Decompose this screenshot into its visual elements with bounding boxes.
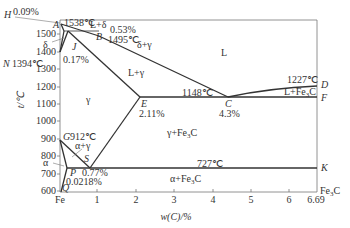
j-pct-label: 0.17% [63,54,89,65]
x-tick-fe: Fe [55,194,66,205]
x-tick-2: 2 [134,194,139,205]
h-pct-label: 0.09% [13,6,39,17]
point-d-label: D [320,79,329,90]
d-temp-label: 1227℃ [287,74,318,85]
alpha-fe3c-region-label: α+Fe3C [170,173,201,186]
x-tick-5: 5 [249,194,254,205]
y-tick-1100: 1100 [36,98,56,109]
alpha-gamma-region-label: α+γ [75,140,91,151]
b-temp-label: 1495℃ [108,34,139,45]
l-delta-label: L+δ [90,19,107,30]
x-tick-3: 3 [172,194,177,205]
y-tick-900: 900 [41,133,56,144]
point-a-label: A [52,19,60,30]
e-pct-label: 2.11% [139,108,164,119]
point-f-label: F [320,92,328,103]
line-gp [60,140,67,168]
alpha-label: α [43,157,49,168]
point-h-label: H [3,9,12,20]
psk-temp-label: 727℃ [197,158,223,169]
point-n-label: N [2,58,11,69]
phase-diagram: 600 700 800 900 1000 1100 1200 1300 1400… [0,0,350,228]
x-ticks [97,189,289,192]
y-tick-600: 600 [41,185,56,196]
x-axis-label: w(C)/% [160,211,191,223]
line-es [90,97,140,168]
c-pct-label: 4.3% [219,108,240,119]
p-pct-label: 0.0218% [66,176,102,187]
point-q-label: Q [62,182,70,193]
y-ticks [57,34,60,191]
point-b-label: B [96,31,102,42]
point-k-label: K [320,162,329,173]
ecf-temp-label: 1148℃ [182,87,213,98]
x-tick-labels: Fe 1 2 3 4 5 6 6.69 [55,194,325,205]
l-gamma-region-label: L+γ [128,67,145,78]
x-tick-4: 4 [211,194,216,205]
point-s-label: S [84,153,89,164]
gamma-fe3c-region-label: γ+Fe3C [166,127,198,140]
y-axis-label: t/℃ [15,90,26,109]
x-tick-6: 6 [287,194,292,205]
liquid-region-label: L [221,47,227,58]
y-tick-1000: 1000 [36,115,56,126]
x-tick-1: 1 [95,194,100,205]
y-tick-700: 700 [41,168,56,179]
delta-gamma-label: δ+γ [137,39,152,50]
y-tick-labels: 600 700 800 900 1000 1100 1200 1300 1400… [36,28,56,196]
y-tick-1200: 1200 [36,81,56,92]
point-j-label: J [72,41,77,52]
gamma-region-label: γ [85,94,91,105]
delta-label: δ [43,39,48,50]
n-temp-label: 1394℃ [12,58,43,69]
